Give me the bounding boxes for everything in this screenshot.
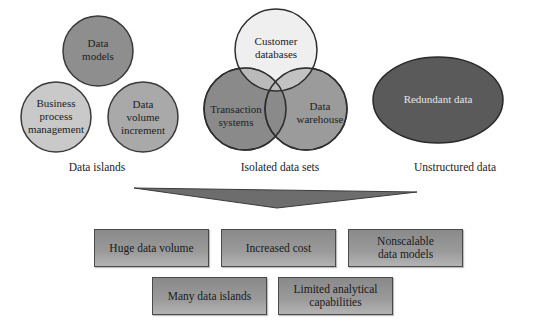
box-label-line: capabilities — [294, 296, 378, 309]
label-line: systems — [198, 116, 274, 129]
label-customer-databases: Customer databases — [236, 35, 316, 61]
label-line: increment — [107, 124, 179, 137]
box-label-line: Many data islands — [168, 290, 252, 303]
label-line: Transaction — [198, 103, 274, 116]
label-business-process-management: Business process management — [18, 97, 94, 136]
box-huge-data-volume: Huge data volume — [94, 229, 209, 267]
label-transaction-systems: Transaction systems — [198, 103, 274, 129]
box-limited-analytical-capabilities: Limited analytical capabilities — [278, 277, 393, 315]
label-line: Data — [282, 100, 358, 113]
label-redundant-data: Redundant data — [388, 93, 488, 106]
box-label-line: Limited analytical — [294, 283, 378, 296]
caption-unstructured-data: Unstructured data — [400, 161, 510, 173]
label-line: Business — [18, 97, 94, 110]
label-data-volume-increment: Data volume increment — [107, 98, 179, 137]
label-line: warehouse — [282, 113, 358, 126]
label-line: Data — [63, 37, 133, 50]
label-line: models — [63, 50, 133, 63]
box-increased-cost: Increased cost — [221, 229, 336, 267]
box-label-line: Increased cost — [246, 242, 311, 255]
label-line: Customer — [236, 35, 316, 48]
box-nonscalable-data-models: Nonscalable data models — [348, 229, 463, 267]
label-line: databases — [236, 48, 316, 61]
caption-isolated-data-sets: Isolated data sets — [220, 161, 340, 173]
box-label-line: Nonscalable — [377, 235, 434, 248]
label-data-models: Data models — [63, 37, 133, 63]
caption-data-islands: Data islands — [47, 161, 147, 173]
label-line: management — [18, 123, 94, 136]
box-many-data-islands: Many data islands — [152, 277, 267, 315]
label-line: Data — [107, 98, 179, 111]
label-line: process — [18, 110, 94, 123]
box-label-line: Huge data volume — [109, 242, 193, 255]
label-data-warehouse: Data warehouse — [282, 100, 358, 126]
box-label-line: data models — [377, 248, 434, 261]
funnel-arrow — [134, 188, 417, 208]
label-line: volume — [107, 111, 179, 124]
